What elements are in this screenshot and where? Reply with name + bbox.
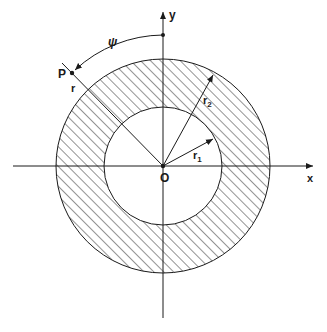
radius-r-label: r	[71, 82, 76, 94]
x-axis-label: x	[307, 172, 314, 184]
annulus-diagram: y x O P r ψ r2 r1	[0, 0, 327, 332]
origin-point	[161, 164, 165, 168]
angle-psi-label: ψ	[108, 35, 118, 49]
point-P-label: P	[58, 67, 66, 81]
y-axis-point	[161, 33, 165, 37]
point-P	[70, 71, 74, 75]
origin-label: O	[160, 171, 169, 185]
y-axis-label: y	[169, 8, 176, 22]
